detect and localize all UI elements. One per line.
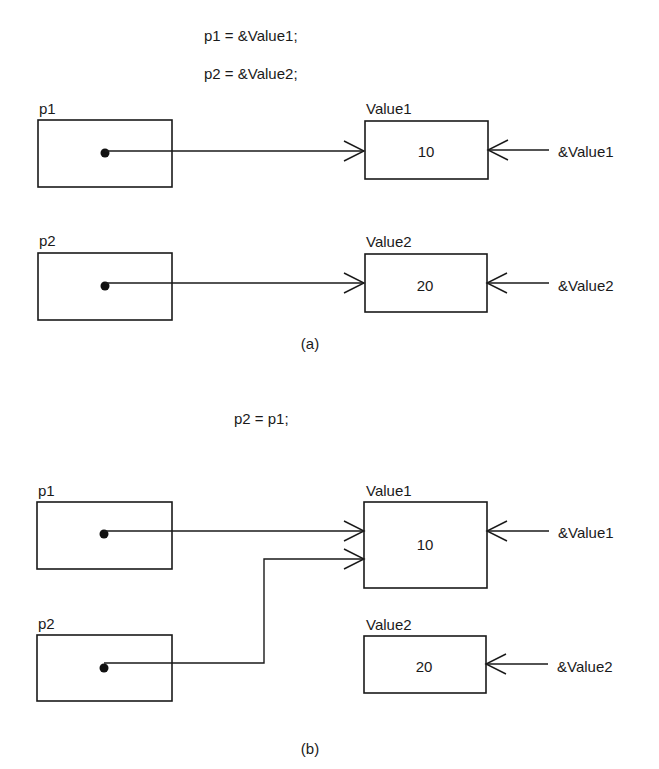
code-line-assign: p2 = p1; bbox=[234, 410, 289, 427]
address-label-value2: &Value2 bbox=[558, 277, 614, 294]
pointer-dot-p1 bbox=[101, 149, 110, 158]
code-line-2: p2 = &Value2; bbox=[204, 65, 298, 82]
diagram-a: p1 = &Value1; p2 = &Value2; p1 Value1 10… bbox=[38, 27, 614, 352]
address-label-value1: &Value1 bbox=[558, 524, 614, 541]
value-label-value2: Value2 bbox=[366, 233, 412, 250]
value-content-value1: 10 bbox=[417, 536, 434, 553]
pointer-dot-p2 bbox=[100, 664, 109, 673]
caption-b: (b) bbox=[301, 740, 319, 757]
address-label-value2: &Value2 bbox=[557, 658, 613, 675]
pointer-label-p1: p1 bbox=[38, 482, 55, 499]
pointer-diagram: p1 = &Value1; p2 = &Value2; p1 Value1 10… bbox=[0, 0, 659, 769]
value-content-value1: 10 bbox=[418, 143, 435, 160]
value-label-value1: Value1 bbox=[366, 100, 412, 117]
value-content-value2: 20 bbox=[416, 658, 433, 675]
code-line-1: p1 = &Value1; bbox=[204, 27, 298, 44]
diagram-b: p2 = p1; p1 Value1 10 &Value1 p2 Value2 … bbox=[37, 410, 614, 757]
pointer-label-p2: p2 bbox=[38, 615, 55, 632]
address-label-value1: &Value1 bbox=[558, 143, 614, 160]
pointer-label-p1: p1 bbox=[39, 100, 56, 117]
value-label-value1: Value1 bbox=[366, 482, 412, 499]
pointer-label-p2: p2 bbox=[39, 232, 56, 249]
value-content-value2: 20 bbox=[417, 277, 434, 294]
caption-a: (a) bbox=[301, 335, 319, 352]
value-label-value2: Value2 bbox=[366, 616, 412, 633]
arrow-p2-to-value1 bbox=[104, 559, 364, 663]
